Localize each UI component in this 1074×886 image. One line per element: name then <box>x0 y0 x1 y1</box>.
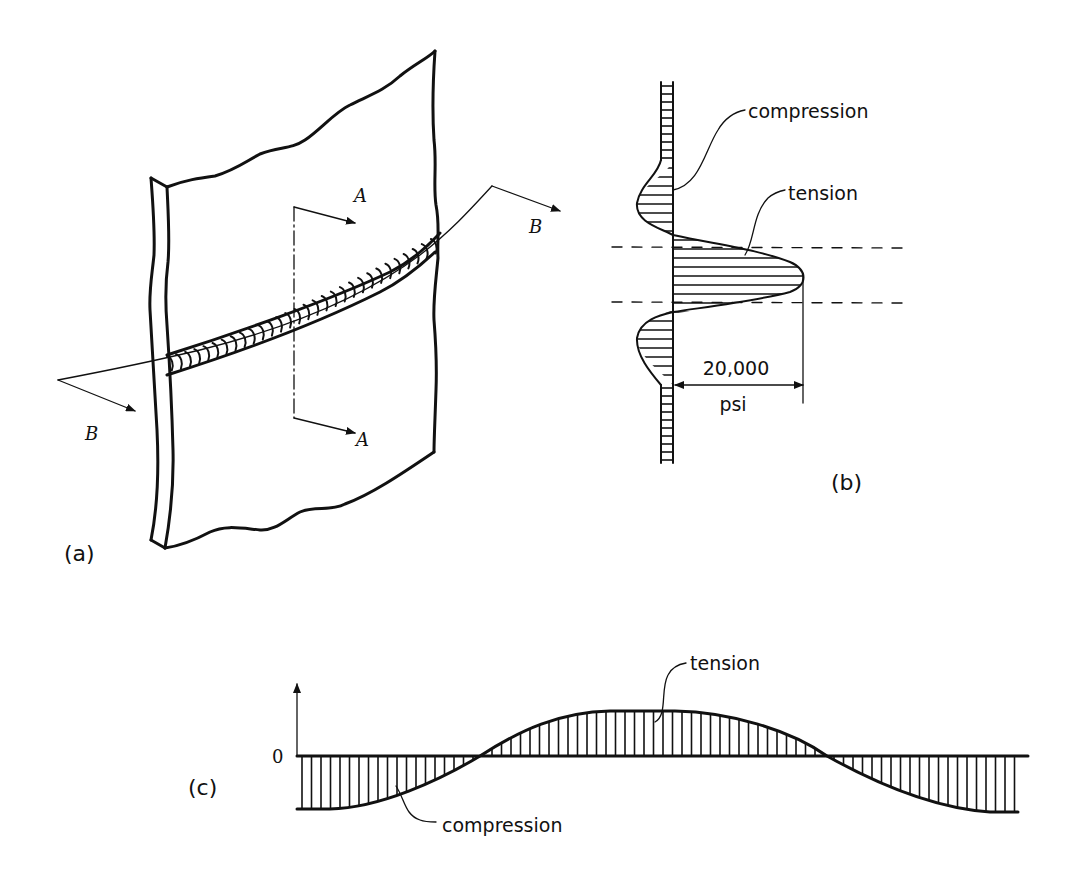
transverse-stress-curve <box>637 160 804 385</box>
plate-edge-outer <box>150 178 158 540</box>
section-a-label-top: A <box>352 185 367 206</box>
tension-label-c: tension <box>690 652 760 674</box>
weld-bead <box>167 233 440 375</box>
weld-residual-stress-diagram: A A B B (a) co <box>0 0 1074 886</box>
section-b-label-left: B <box>84 423 98 444</box>
compression-label-b: compression <box>748 100 868 122</box>
section-a-label-bottom: A <box>354 429 369 450</box>
plate-top-break-line <box>167 51 435 187</box>
compression-leader-c <box>396 786 436 822</box>
panel-a-label: (a) <box>64 541 95 566</box>
plate-edge-bottom-cap <box>151 540 165 548</box>
plate-edge-top-cap <box>151 178 167 187</box>
compression-label-c: compression <box>442 814 562 836</box>
panel-b-transverse-stress: compression tension 20,000 psi (b) <box>612 82 905 495</box>
zero-label: 0 <box>272 746 283 767</box>
plate-bottom-break-line <box>165 452 434 548</box>
dimension-value: 20,000 <box>703 357 769 379</box>
panel-c-label: (c) <box>188 775 217 800</box>
panel-a-welded-plate: A A B B (a) <box>58 51 560 566</box>
section-b-label-right: B <box>528 216 542 237</box>
base-stress-ladder <box>661 82 673 463</box>
panel-b-label: (b) <box>831 470 862 495</box>
panel-c-longitudinal-stress: 0 tension compression (c) <box>188 652 1028 836</box>
weld-boundary-lower <box>612 302 905 303</box>
weld-boundary-upper <box>612 247 905 248</box>
compression-leader-b <box>673 110 745 190</box>
tension-leader-b <box>745 190 785 255</box>
section-b-b: B B <box>58 186 560 444</box>
dimension-unit: psi <box>719 393 746 415</box>
tension-label-b: tension <box>788 182 858 204</box>
